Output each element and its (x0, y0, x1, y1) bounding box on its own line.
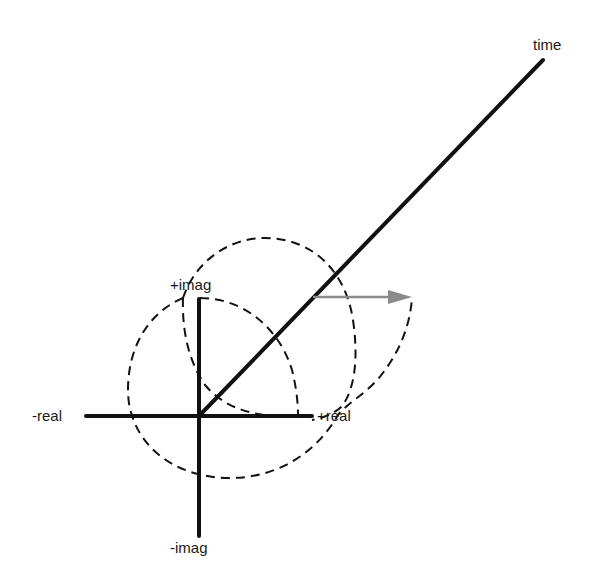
dashed-large-loop (128, 298, 412, 478)
minus-imag-label: -imag (170, 540, 208, 555)
minus-real-label: -real (32, 408, 62, 423)
arrowhead-icon (388, 290, 412, 304)
plus-imag-label: +imag (170, 277, 211, 292)
plus-real-label: +real (317, 408, 351, 423)
time-axis-label: time (533, 37, 561, 52)
helix-diagram: time +imag -imag -real +real (0, 0, 602, 581)
time-axis (199, 60, 543, 416)
dashed-rotated-loop-inner (183, 298, 275, 416)
diagram-canvas (0, 0, 602, 581)
